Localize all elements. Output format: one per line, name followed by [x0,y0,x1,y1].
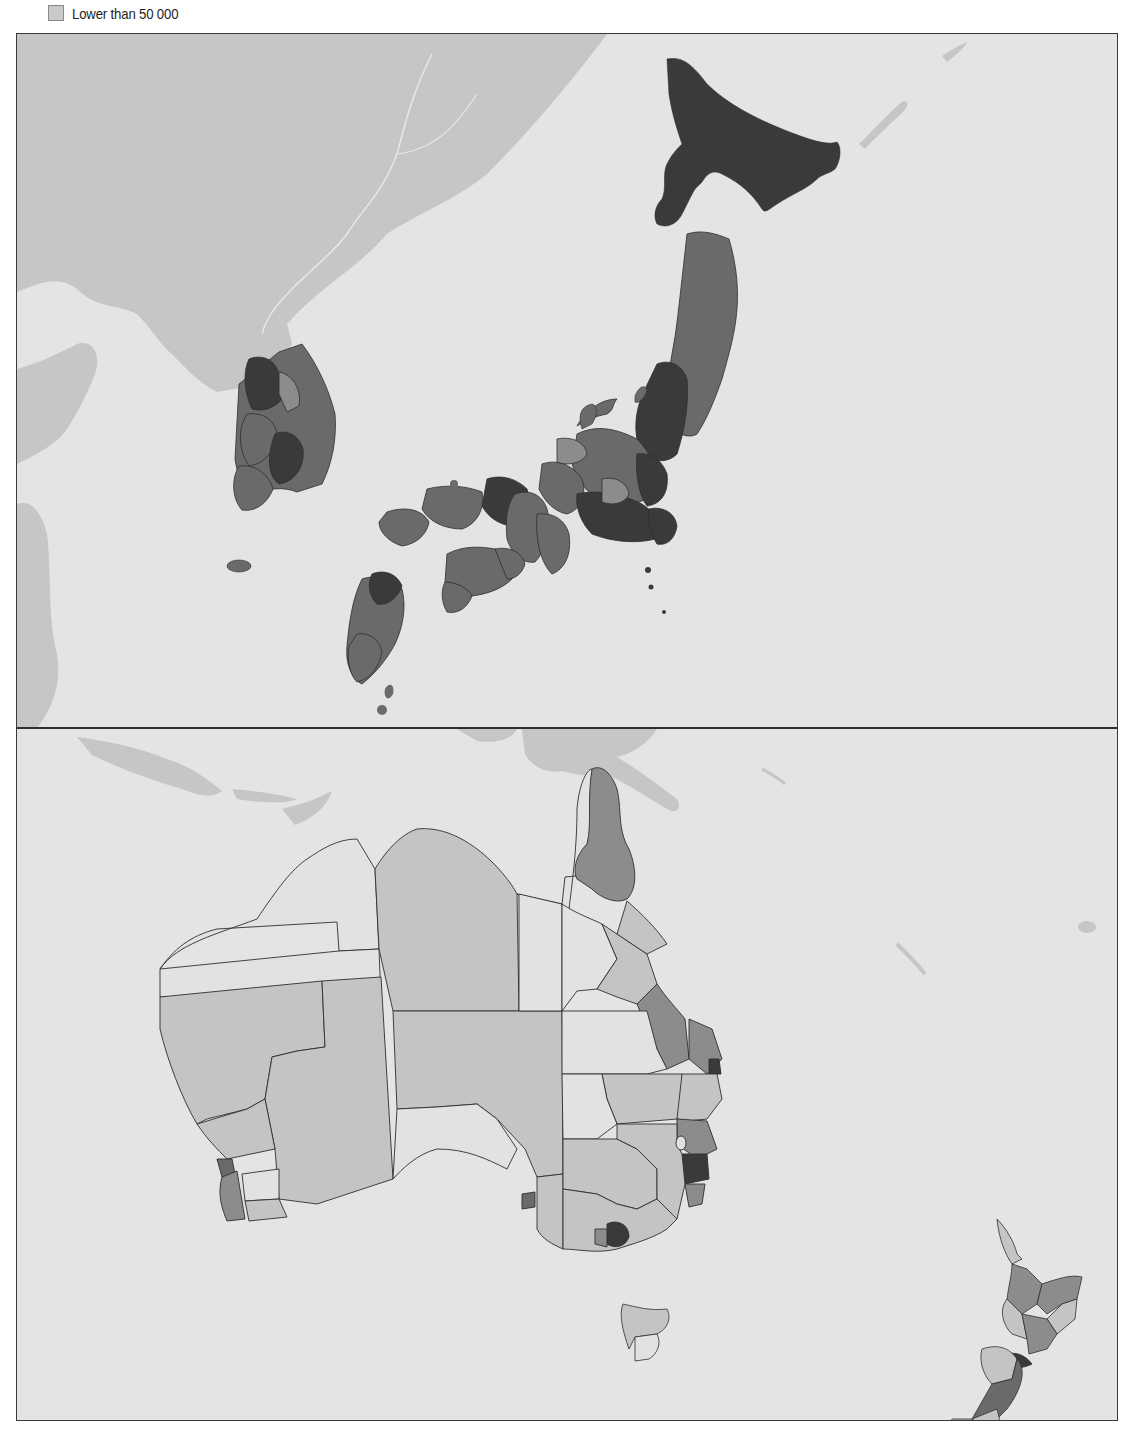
map-panel-oceania [17,729,1117,1421]
north-asia-map [17,34,1118,728]
jeju-island [227,560,251,572]
legend-label-lowest: Lower than 50 000 [72,5,178,22]
map-legend: Lower than 50 000 [48,2,193,24]
map-panel-north-asia [17,34,1117,728]
legend-swatch-lowest [48,5,64,21]
oceania-map [17,729,1118,1421]
map-frame [16,33,1118,1421]
